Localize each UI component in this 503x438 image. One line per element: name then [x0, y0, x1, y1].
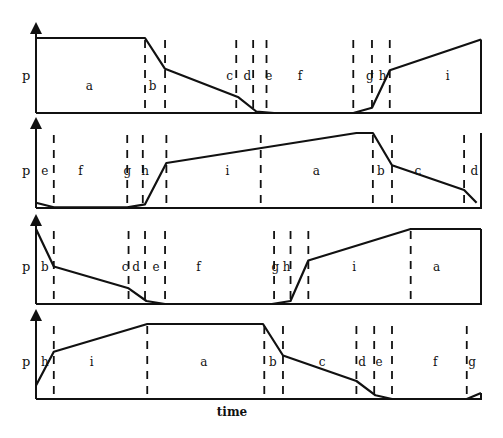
phase-label-h: h — [41, 355, 49, 369]
phase-label-g: g — [123, 164, 131, 178]
pressure-curve — [36, 324, 481, 399]
panel-1: pabcdefghi — [22, 28, 482, 113]
phase-label-g: g — [468, 355, 476, 369]
panel-3: pbcdefghia — [22, 220, 482, 304]
phase-label-b: b — [41, 260, 49, 274]
phase-label-d: d — [132, 260, 140, 274]
phase-label-f: f — [78, 164, 84, 178]
y-axis-label: p — [22, 259, 30, 274]
panel-2: pefghiabcd — [22, 123, 482, 208]
phase-label-f: f — [298, 69, 304, 83]
pressure-curve — [36, 133, 477, 207]
phase-label-c: c — [319, 355, 326, 369]
phase-label-e: e — [153, 260, 160, 274]
phase-label-i: i — [446, 69, 450, 83]
phase-label-c: c — [122, 260, 129, 274]
y-axis-label: p — [22, 163, 30, 178]
phase-label-i: i — [352, 260, 356, 274]
phase-label-c: c — [414, 164, 421, 178]
phase-label-i: i — [90, 355, 94, 369]
phase-label-e: e — [265, 69, 272, 83]
panel-4: phiabcdefg — [22, 315, 482, 399]
phase-label-g: g — [366, 69, 374, 83]
phase-label-g: g — [272, 260, 280, 274]
phase-label-f: f — [433, 355, 439, 369]
phase-label-a: a — [200, 355, 207, 369]
x-axis-label: time — [217, 405, 248, 419]
phase-label-a: a — [313, 164, 320, 178]
phase-diagram: pabcdefghipefghiabcdpbcdefghiaphiabcdefg… — [0, 0, 503, 438]
phase-label-c: c — [226, 69, 233, 83]
phase-label-a: a — [433, 260, 440, 274]
phase-label-d: d — [358, 355, 366, 369]
y-axis-label: p — [22, 354, 30, 369]
phase-label-i: i — [225, 164, 229, 178]
y-axis-label: p — [22, 68, 30, 83]
phase-label-h: h — [379, 69, 387, 83]
phase-label-d: d — [244, 69, 252, 83]
phase-label-b: b — [377, 164, 385, 178]
phase-label-h: h — [283, 260, 291, 274]
phase-label-b: b — [269, 355, 277, 369]
phase-label-b: b — [149, 79, 157, 93]
pressure-curve — [36, 229, 481, 304]
phase-label-h: h — [141, 164, 149, 178]
phase-label-d: d — [470, 164, 478, 178]
phase-label-a: a — [86, 79, 93, 93]
pressure-curve — [36, 38, 481, 113]
phase-label-f: f — [196, 260, 202, 274]
phase-label-e: e — [376, 355, 383, 369]
phase-label-e: e — [41, 164, 48, 178]
